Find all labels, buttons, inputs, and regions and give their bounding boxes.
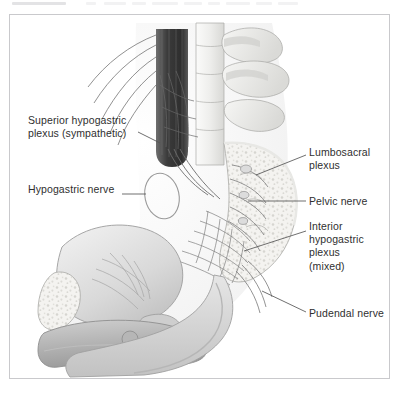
top-strip-chip — [12, 2, 66, 5]
label-hypogastric-nerve: Hypogastric nerve — [28, 183, 114, 196]
label-line: Pudendal nerve — [309, 307, 384, 320]
top-strip-ghost — [104, 2, 126, 5]
label-line: Lumbosacral — [309, 146, 370, 159]
top-strip-ghost — [208, 2, 220, 5]
label-line: Superior hypogastric — [28, 114, 126, 127]
leader-pudendal — [262, 291, 306, 312]
label-line: Pelvic nerve — [309, 195, 367, 208]
label-line: Interior — [309, 220, 364, 233]
top-strip-ghost — [226, 2, 250, 5]
top-strip-ghost — [278, 2, 298, 5]
label-line: plexus — [309, 159, 370, 172]
label-inferior-hypogastric-plexus: Interior hypogastric plexus (mixed) — [309, 220, 364, 273]
clipped-top-strip — [0, 0, 401, 9]
top-strip-ghost — [184, 2, 202, 5]
label-pudendal-nerve: Pudendal nerve — [309, 307, 384, 320]
label-superior-hypogastric-plexus: Superior hypogastric plexus (sympathetic… — [28, 114, 126, 140]
label-line: plexus (sympathetic) — [28, 127, 126, 140]
label-pelvic-nerve: Pelvic nerve — [309, 195, 367, 208]
label-line: plexus — [309, 246, 364, 259]
label-line: (mixed) — [309, 260, 364, 273]
label-line: hypogastric — [309, 233, 364, 246]
top-strip-ghost — [152, 2, 178, 5]
figure-frame: Superior hypogastric plexus (sympathetic… — [9, 14, 390, 379]
top-strip-ghost — [86, 2, 96, 5]
top-strip-ghost — [256, 2, 272, 5]
top-strip-ghost — [132, 2, 146, 5]
label-line: Hypogastric nerve — [28, 183, 114, 196]
label-lumbosacral-plexus: Lumbosacral plexus — [309, 146, 370, 172]
